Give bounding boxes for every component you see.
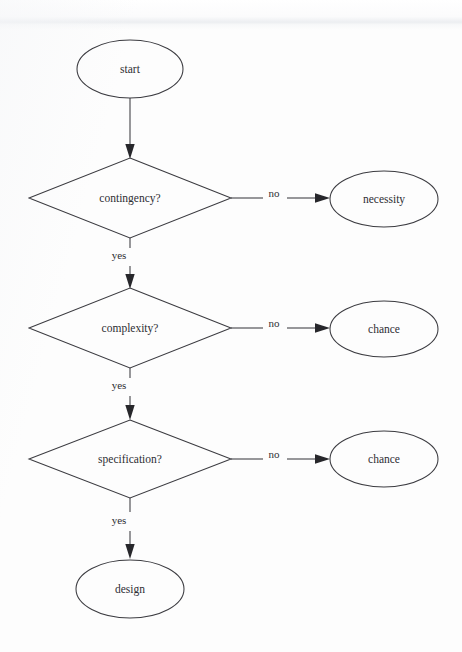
chance-2-label: chance [368,453,400,465]
node-complexity[interactable]: complexity? [29,288,231,368]
arrow-head-down-icon [125,544,134,559]
node-chance-1[interactable]: chance [330,301,438,357]
edge-complexity-yes-specification: yes [112,368,135,420]
arrow-head-down-icon [125,274,134,289]
specification-label: specification? [98,453,162,466]
node-start[interactable]: start [77,40,183,98]
flowchart-diagram: start contingency? no necessity [0,0,462,652]
arrow-head-right-icon [315,454,330,463]
flowchart-canvas: start contingency? no necessity [0,0,462,652]
edge-label-no: no [269,448,281,460]
edge-complexity-no-chance: no [231,317,330,333]
edge-label-no: no [269,317,281,329]
start-label: start [120,63,141,75]
edge-specification-yes-design: yes [112,498,135,559]
edge-label-no: no [269,187,281,199]
contingency-label: contingency? [99,192,160,205]
design-label: design [115,583,145,596]
edge-specification-no-chance: no [231,448,330,464]
edge-label-yes: yes [112,379,127,391]
edge-start-to-contingency [125,98,134,159]
node-design[interactable]: design [76,560,184,618]
node-necessity[interactable]: necessity [330,171,438,227]
chance-1-label: chance [368,323,400,335]
arrow-head-down-icon [125,405,134,420]
arrow-head-right-icon [315,193,330,202]
complexity-label: complexity? [102,322,159,335]
edge-label-yes: yes [112,249,127,261]
node-contingency[interactable]: contingency? [29,158,231,238]
edge-label-yes: yes [112,514,127,526]
node-specification[interactable]: specification? [29,420,231,498]
necessity-label: necessity [363,193,405,206]
arrow-head-right-icon [315,323,330,332]
arrow-head-down-icon [125,144,134,159]
edge-contingency-yes-complexity: yes [112,238,135,289]
edge-contingency-no-necessity: no [231,187,330,203]
node-chance-2[interactable]: chance [330,431,438,487]
